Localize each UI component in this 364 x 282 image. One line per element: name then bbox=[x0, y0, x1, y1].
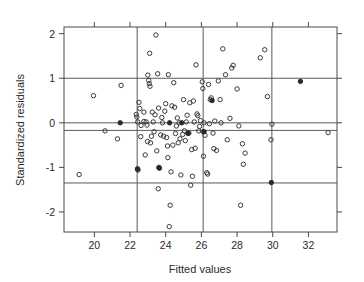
data-point bbox=[115, 137, 119, 141]
data-point bbox=[164, 101, 168, 105]
data-point bbox=[269, 138, 273, 142]
data-point bbox=[240, 142, 244, 146]
data-point bbox=[155, 72, 159, 76]
data-point bbox=[91, 93, 95, 97]
data-point bbox=[191, 99, 195, 103]
data-point bbox=[153, 113, 157, 117]
data-point bbox=[263, 48, 267, 52]
data-point bbox=[118, 121, 122, 125]
data-point bbox=[207, 122, 211, 126]
data-point bbox=[173, 131, 177, 135]
data-point bbox=[156, 187, 160, 191]
data-point bbox=[167, 224, 171, 228]
data-point bbox=[165, 144, 169, 148]
data-point bbox=[194, 63, 198, 67]
data-point bbox=[216, 79, 220, 83]
data-point bbox=[269, 180, 273, 184]
data-point bbox=[179, 173, 183, 177]
data-point bbox=[166, 155, 170, 159]
data-point bbox=[167, 121, 171, 125]
data-point bbox=[178, 137, 182, 141]
data-point bbox=[160, 115, 164, 119]
data-point bbox=[243, 151, 247, 155]
data-point bbox=[211, 131, 215, 135]
tick-labels: 20222426283032-2-1012 bbox=[46, 28, 315, 251]
y-tick-label: 1 bbox=[49, 72, 55, 84]
data-point bbox=[200, 80, 204, 84]
data-point bbox=[223, 72, 227, 76]
x-tick-label: 24 bbox=[160, 239, 172, 251]
data-point bbox=[148, 84, 152, 88]
data-point bbox=[238, 203, 242, 207]
data-point bbox=[77, 172, 81, 176]
data-point bbox=[205, 172, 209, 176]
data-point bbox=[168, 203, 172, 207]
data-point bbox=[143, 153, 147, 157]
data-point bbox=[147, 51, 151, 55]
y-tick-label: 2 bbox=[49, 28, 55, 40]
data-point bbox=[197, 124, 201, 128]
x-tick-label: 30 bbox=[267, 239, 279, 251]
x-tick-label: 28 bbox=[231, 239, 243, 251]
data-point bbox=[298, 79, 302, 83]
data-point bbox=[155, 149, 159, 153]
data-point bbox=[326, 130, 330, 134]
data-point bbox=[186, 131, 190, 135]
data-point bbox=[156, 106, 160, 110]
data-point bbox=[237, 124, 241, 128]
chart-page: 20222426283032-2-1012 Fitted values Stan… bbox=[0, 0, 364, 282]
y-tick-label: -2 bbox=[46, 206, 55, 218]
data-point bbox=[163, 109, 167, 113]
data-point bbox=[138, 106, 142, 110]
x-tick-label: 32 bbox=[303, 239, 315, 251]
data-point bbox=[188, 183, 192, 187]
data-point bbox=[181, 97, 185, 101]
data-point bbox=[171, 143, 175, 147]
data-point bbox=[221, 47, 225, 51]
x-tick-label: 22 bbox=[124, 239, 136, 251]
data-point bbox=[172, 81, 176, 85]
data-point bbox=[235, 87, 239, 91]
data-point bbox=[228, 116, 232, 120]
data-point bbox=[169, 170, 173, 174]
data-point bbox=[166, 72, 170, 76]
data-point bbox=[210, 98, 214, 102]
data-point bbox=[192, 120, 196, 124]
x-tick-label: 26 bbox=[196, 239, 208, 251]
data-point bbox=[157, 166, 161, 170]
y-axis-title: Standardized residuals bbox=[14, 74, 26, 186]
x-axis-title: Fitted values bbox=[169, 263, 232, 275]
data-point bbox=[119, 83, 123, 87]
data-point bbox=[142, 110, 146, 114]
data-point bbox=[154, 33, 158, 37]
data-point bbox=[183, 138, 187, 142]
data-point bbox=[206, 82, 210, 86]
data-point bbox=[151, 120, 155, 124]
data-point bbox=[225, 138, 229, 142]
data-point bbox=[190, 174, 194, 178]
data-point bbox=[241, 162, 245, 166]
data-point bbox=[135, 167, 139, 171]
data-point bbox=[149, 134, 153, 138]
residual-scatter-plot: 20222426283032-2-1012 Fitted values Stan… bbox=[0, 0, 364, 282]
data-point bbox=[184, 120, 188, 124]
data-point bbox=[185, 113, 189, 117]
data-point bbox=[135, 120, 139, 124]
data-point bbox=[139, 134, 143, 138]
data-point bbox=[150, 110, 154, 114]
x-tick-label: 20 bbox=[88, 239, 100, 251]
data-point bbox=[265, 94, 269, 98]
data-point bbox=[180, 121, 184, 125]
data-point bbox=[218, 97, 222, 101]
y-tick-label: 0 bbox=[49, 117, 55, 129]
data-point bbox=[146, 73, 150, 77]
data-point bbox=[258, 56, 262, 60]
data-point bbox=[175, 116, 179, 120]
data-point bbox=[139, 123, 143, 127]
y-tick-label: -1 bbox=[46, 161, 55, 173]
data-point bbox=[202, 130, 206, 134]
